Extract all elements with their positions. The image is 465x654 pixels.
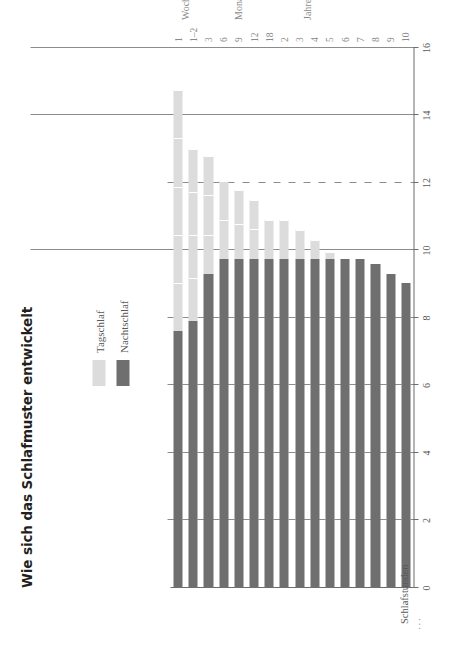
bar-segment-tagschlaf <box>249 200 258 230</box>
grid-tick <box>212 317 219 318</box>
category-label-5: 5 <box>324 37 334 42</box>
grid-tick <box>379 452 386 453</box>
grid-tick <box>167 520 174 521</box>
grid-tick <box>349 47 356 48</box>
grid-tick <box>167 452 174 453</box>
grid-tick <box>242 520 249 521</box>
legend-label-tagschlaf: Tagschlaf <box>93 310 105 353</box>
grid-tick <box>318 182 325 183</box>
grid-tick <box>258 520 265 521</box>
grid-tick <box>258 317 265 318</box>
bar-segment-tagschlaf <box>249 229 258 259</box>
value-tick-label: 16 <box>420 43 431 53</box>
grid-tick <box>379 385 386 386</box>
grid-tick <box>394 250 401 251</box>
grid-tick <box>182 115 189 116</box>
grid-tick <box>364 250 371 251</box>
bar-segment-tagschlaf <box>219 220 228 259</box>
bar-2 <box>279 220 288 588</box>
grid-tick <box>227 317 234 318</box>
grid-tick <box>349 182 356 183</box>
grid-tick <box>182 452 189 453</box>
grid-tick <box>273 452 280 453</box>
grid-tick <box>364 47 371 48</box>
grid-tick <box>197 47 204 48</box>
grid-tick <box>242 452 249 453</box>
grid-tick <box>379 317 386 318</box>
grid-tick <box>364 182 371 183</box>
category-label-6: 6 <box>340 37 350 42</box>
grid-tick <box>349 317 356 318</box>
bar-segment-tagschlaf <box>203 235 212 274</box>
grid-tick <box>288 250 295 251</box>
category-label-9: 9 <box>385 37 395 42</box>
bar-segment-tagschlaf <box>295 230 304 259</box>
bar-segment-nachtschlaf <box>279 259 288 588</box>
grid-tick <box>227 452 234 453</box>
grid-tick <box>318 317 325 318</box>
grid-tick <box>197 317 204 318</box>
bar-1 <box>173 90 182 588</box>
value-tick <box>413 385 418 386</box>
legend-swatch-tagschlaf <box>92 360 105 386</box>
grid-tick <box>167 47 174 48</box>
grid-tick <box>242 182 249 183</box>
grid-tick <box>258 182 265 183</box>
grid-tick <box>258 385 265 386</box>
category-group-labels: WochenMonateJahre <box>170 0 413 20</box>
value-axis-line <box>413 48 414 588</box>
grid-tick <box>212 182 219 183</box>
grid-tick <box>288 47 295 48</box>
bar-segment-tagschlaf <box>173 139 182 187</box>
grid-tick <box>242 385 249 386</box>
legend-item-nachtschlaf: Nachtschlaf <box>116 300 129 386</box>
bar-segment-tagschlaf <box>173 90 182 138</box>
bar-segment-nachtschlaf <box>188 321 197 588</box>
value-tick <box>413 182 418 183</box>
bar-segment-tagschlaf <box>325 252 334 259</box>
value-tick-label: 6 <box>420 383 431 388</box>
grid-tick <box>197 520 204 521</box>
grid-tick <box>242 115 249 116</box>
grid-tick <box>167 385 174 386</box>
bar-segment-nachtschlaf <box>401 283 410 588</box>
chart-legend: Tagschlaf Nachtschlaf <box>92 300 140 386</box>
grid-tick <box>167 317 174 318</box>
grid-tick <box>394 452 401 453</box>
grid-tick <box>288 452 295 453</box>
grid-tick <box>273 250 280 251</box>
value-tick-label: 12 <box>420 178 431 188</box>
category-label-1–2: 1–2 <box>188 28 198 42</box>
bar-segment-nachtschlaf <box>219 259 228 588</box>
bar-segment-nachtschlaf <box>340 259 349 588</box>
grid-tick <box>227 182 234 183</box>
bar-segment-tagschlaf <box>203 156 212 195</box>
bar-segment-nachtschlaf <box>310 259 319 588</box>
grid-tick <box>212 520 219 521</box>
grid-tick <box>394 520 401 521</box>
grid-tick <box>288 182 295 183</box>
grid-tick <box>318 115 325 116</box>
category-label-7: 7 <box>355 37 365 42</box>
value-axis-label: Schlafstunden <box>398 565 409 625</box>
bar-segment-nachtschlaf <box>264 259 273 588</box>
grid-tick <box>349 115 356 116</box>
grid-tick <box>212 452 219 453</box>
grid-tick <box>212 115 219 116</box>
grid-tick <box>379 520 386 521</box>
plot-area <box>170 48 413 588</box>
grid-tick <box>212 250 219 251</box>
axis-truncation-marks: ··· <box>413 617 424 630</box>
grid-tick <box>379 47 386 48</box>
bar-segment-tagschlaf <box>279 220 288 259</box>
value-tick-label: 8 <box>420 316 431 321</box>
bar-segment-nachtschlaf <box>295 259 304 588</box>
bar-12 <box>249 200 258 588</box>
grid-tick <box>364 317 371 318</box>
grid-tick <box>318 385 325 386</box>
grid-tick <box>273 182 280 183</box>
category-label-10: 10 <box>400 33 410 43</box>
bar-1–2 <box>188 149 197 588</box>
category-label-4: 4 <box>309 37 319 42</box>
category-label-3: 3 <box>294 37 304 42</box>
